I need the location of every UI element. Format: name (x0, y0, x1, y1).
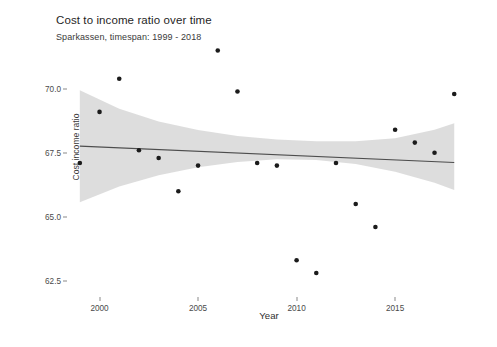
y-tick-label: 67.5 (45, 148, 61, 157)
plot-panel: Cost income ratio Year 70.067.565.062.5 … (68, 48, 470, 296)
y-tick-mark (63, 152, 67, 153)
x-tick-label: 2000 (90, 304, 108, 313)
data-point (452, 92, 457, 97)
data-point (294, 258, 299, 263)
data-point (432, 151, 437, 156)
data-point (78, 161, 83, 166)
x-tick-mark (296, 297, 297, 301)
data-point (137, 148, 142, 153)
data-point (314, 271, 319, 276)
data-point (275, 163, 280, 168)
x-axis-label: Year (68, 310, 470, 321)
data-point (413, 140, 418, 145)
data-point (196, 163, 201, 168)
chart-container: Cost to income ratio over time Sparkasse… (0, 0, 497, 347)
data-point (353, 202, 358, 207)
x-tick-label: 2010 (287, 304, 305, 313)
data-point (393, 128, 398, 133)
data-point (334, 161, 339, 166)
data-point (255, 161, 260, 166)
y-tick-mark (63, 88, 67, 89)
data-point (117, 76, 122, 81)
y-tick-label: 70.0 (45, 84, 61, 93)
x-tick-label: 2015 (386, 304, 404, 313)
scatter-plot-area (68, 48, 470, 296)
x-tick-mark (99, 297, 100, 301)
chart-title: Cost to income ratio over time (56, 14, 212, 26)
data-point (176, 189, 181, 194)
y-tick-label: 62.5 (45, 276, 61, 285)
data-point (97, 110, 102, 115)
y-tick-label: 65.0 (45, 212, 61, 221)
x-tick-label: 2005 (189, 304, 207, 313)
data-point (235, 89, 240, 94)
x-tick-mark (395, 297, 396, 301)
y-tick-mark (63, 280, 67, 281)
confidence-band (80, 90, 454, 202)
data-point (215, 48, 220, 53)
data-point (156, 156, 161, 161)
data-point (373, 225, 378, 230)
y-tick-mark (63, 216, 67, 217)
x-tick-mark (198, 297, 199, 301)
chart-subtitle: Sparkassen, timespan: 1999 - 2018 (56, 32, 201, 42)
